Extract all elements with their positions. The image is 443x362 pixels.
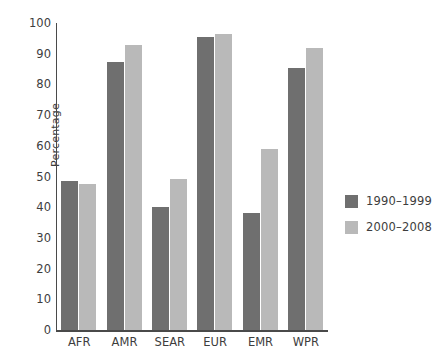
legend-item-label: 1990–1999 xyxy=(366,194,432,208)
bar-group: EMR xyxy=(243,23,278,330)
y-axis-tick-label: 90 xyxy=(36,47,51,61)
legend-swatch-icon xyxy=(345,195,358,208)
y-axis-tick-label: 40 xyxy=(36,200,51,214)
y-axis-tick-label: 80 xyxy=(36,77,51,91)
y-axis-tick-label: 20 xyxy=(36,262,51,276)
bar xyxy=(125,45,142,330)
bar xyxy=(152,207,169,330)
plot-area: 1009080706050403020100 AFRAMRSEAREUREMRW… xyxy=(56,23,328,330)
bar-chart: Percentage 1009080706050403020100 AFRAMR… xyxy=(0,0,443,362)
y-axis-tick-label: 60 xyxy=(36,139,51,153)
bar xyxy=(170,179,187,330)
bar-group: EUR xyxy=(197,23,232,330)
legend-swatch-icon xyxy=(345,221,358,234)
bar xyxy=(261,149,278,330)
bar-group: AMR xyxy=(107,23,142,330)
bar xyxy=(107,62,124,330)
legend-item-label: 2000–2008 xyxy=(366,220,432,234)
bar xyxy=(61,181,78,330)
legend-item-series-0: 1990–1999 xyxy=(345,191,432,211)
bar xyxy=(306,48,323,330)
x-axis-line xyxy=(56,330,328,332)
bar-group: AFR xyxy=(61,23,96,330)
bar xyxy=(243,213,260,330)
bar xyxy=(197,37,214,330)
bar xyxy=(79,184,96,330)
y-axis-tick-label: 100 xyxy=(29,16,51,30)
chart-legend: 1990–1999 2000–2008 xyxy=(345,191,432,243)
y-axis-tick-label: 50 xyxy=(36,170,51,184)
x-axis-tick-label: WPR xyxy=(278,335,334,349)
bar-group: WPR xyxy=(288,23,323,330)
legend-item-series-1: 2000–2008 xyxy=(345,217,432,237)
bar xyxy=(288,68,305,330)
bar xyxy=(215,34,232,330)
y-axis-tick-label: 70 xyxy=(36,108,51,122)
y-axis-tick-label: 10 xyxy=(36,292,51,306)
y-axis-tick-label: 0 xyxy=(44,323,51,337)
y-axis-line xyxy=(56,23,57,330)
y-axis-tick-label: 30 xyxy=(36,231,51,245)
bar-group: SEAR xyxy=(152,23,187,330)
